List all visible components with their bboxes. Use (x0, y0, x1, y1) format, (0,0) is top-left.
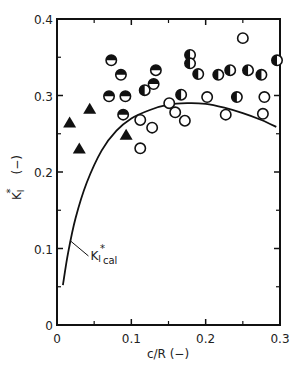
triangle-marker (120, 129, 133, 140)
side-half-circle-marker (256, 70, 266, 80)
top-half-circle-marker (116, 70, 126, 80)
open-circle-marker (259, 92, 269, 102)
open-circle-marker (221, 109, 231, 119)
y-axis-title-unit: (−) (10, 155, 24, 174)
annotation-leader-line (70, 241, 88, 256)
top-half-circle-marker (118, 109, 128, 119)
side-half-circle-marker (176, 90, 186, 100)
top-half-circle-marker (151, 65, 161, 75)
open-circle-marker (147, 122, 157, 132)
y-tick-label: 0.3 (34, 90, 53, 104)
x-tick-label: 0.3 (270, 332, 289, 346)
x-tick-label: 0.1 (122, 332, 141, 346)
triangle-marker (83, 103, 96, 114)
side-half-circle-marker (185, 58, 195, 68)
data-markers (63, 33, 282, 154)
open-circle-marker (238, 33, 248, 43)
triangle-marker (73, 143, 86, 154)
y-tick-label: 0.2 (34, 166, 53, 180)
side-half-circle-marker (140, 85, 150, 95)
side-half-circle-marker (225, 65, 235, 75)
top-half-circle-marker (106, 55, 116, 65)
svg-text:KI*(−): KI*(−) (5, 155, 26, 200)
open-circle-marker (202, 92, 212, 102)
side-half-circle-marker (243, 65, 253, 75)
y-tick-label: 0.4 (34, 13, 53, 27)
top-half-circle-marker (104, 91, 114, 101)
y-axis-title: KI*(−) (5, 155, 26, 200)
y-axis-title-sup: * (5, 188, 16, 193)
x-tick-label: 0 (53, 332, 61, 346)
annotation-label: KI*cal (90, 243, 117, 266)
open-circle-marker (258, 109, 268, 119)
open-circle-marker (170, 107, 180, 117)
x-tick-label: 0.2 (196, 332, 215, 346)
open-circle-marker (164, 98, 174, 108)
curve-annotation: KI*cal (70, 241, 117, 266)
open-circle-marker (135, 115, 145, 125)
triangle-marker (63, 117, 76, 128)
y-tick-label: 0 (45, 319, 53, 333)
x-axis-title: c/R (−) (147, 347, 189, 361)
y-axis-title-sub: I (16, 189, 26, 192)
top-half-circle-marker (120, 91, 130, 101)
y-tick-label: 0.1 (34, 243, 53, 257)
side-half-circle-marker (272, 55, 282, 65)
axis-tick-labels: 00.10.20.300.10.20.30.4 (34, 13, 290, 346)
chart: 00.10.20.300.10.20.30.4 KI*cal c/R (−) K… (0, 0, 300, 378)
open-circle-marker (135, 143, 145, 153)
open-circle-marker (180, 116, 190, 126)
side-half-circle-marker (213, 70, 223, 80)
side-half-circle-marker (193, 69, 203, 79)
side-half-circle-marker (232, 92, 242, 102)
